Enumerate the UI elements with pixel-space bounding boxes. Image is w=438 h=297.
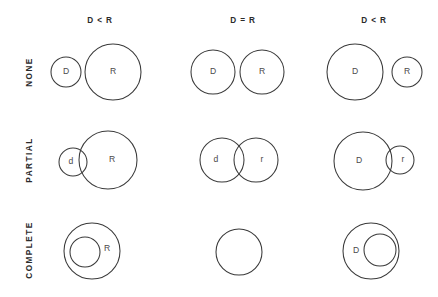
cell-cell-complete-3: D xyxy=(343,223,399,279)
diagram-cells: DRDRDRdRdrDrRD xyxy=(51,44,422,279)
cell-cell-complete-2 xyxy=(216,229,262,275)
cell-partial-2-circle-r-label: r xyxy=(261,154,264,164)
row-labels: NONEPARTIALCOMPLETE xyxy=(25,57,34,279)
cell-partial-1-circle-r-label: R xyxy=(109,154,115,164)
cell-complete-1-circle-r xyxy=(64,223,120,279)
cell-partial-3-circle-r-label: r xyxy=(402,154,405,164)
venn-matrix-figure: D < RD = RD < R NONEPARTIALCOMPLETE DRDR… xyxy=(0,0,438,297)
cell-none-1-circle-d-label: D xyxy=(63,66,69,76)
cell-none-2-circle-d-label: D xyxy=(210,66,216,76)
column-header-2: D = R xyxy=(230,16,256,25)
cell-none-1-circle-r-label: R xyxy=(110,66,116,76)
row-label-row-none: NONE xyxy=(25,57,34,87)
row-label-row-partial: PARTIAL xyxy=(25,137,34,182)
cell-partial-2-circle-d xyxy=(200,138,244,182)
cell-partial-2-circle-r xyxy=(234,138,278,182)
cell-complete-1-circle-r-label: R xyxy=(104,243,110,253)
cell-complete-3-circle-d-label: D xyxy=(353,245,359,255)
cell-cell-complete-1: R xyxy=(64,223,120,279)
cell-complete-3-circle-r xyxy=(364,234,396,266)
cell-cell-partial-3: Dr xyxy=(334,132,414,190)
row-label-row-complete: COMPLETE xyxy=(25,221,34,279)
cell-partial-1-circle-d-label: d xyxy=(69,156,74,166)
cell-cell-none-2: DR xyxy=(191,50,284,94)
cell-cell-partial-2: dr xyxy=(200,138,278,182)
cell-partial-3-circle-d xyxy=(334,132,392,190)
column-headers: D < RD = RD < R xyxy=(87,16,387,25)
cell-partial-3-circle-d-label: D xyxy=(356,155,362,165)
cell-complete-3-circle-d xyxy=(343,223,399,279)
column-header-1: D < R xyxy=(87,16,113,25)
cell-complete-2-circle-dr xyxy=(216,229,262,275)
cell-none-3-circle-d-label: D xyxy=(352,66,358,76)
cell-complete-1-circle-d xyxy=(70,237,100,267)
cell-none-2-circle-r-label: R xyxy=(259,66,265,76)
cell-cell-none-3: DR xyxy=(327,44,422,100)
cell-cell-partial-1: dR xyxy=(59,131,137,189)
column-header-3: D < R xyxy=(361,16,387,25)
cell-partial-3-circle-r xyxy=(386,146,414,174)
cell-partial-2-circle-d-label: d xyxy=(214,154,219,164)
venn-matrix-svg: D < RD = RD < R NONEPARTIALCOMPLETE DRDR… xyxy=(0,0,438,297)
cell-none-3-circle-r-label: R xyxy=(404,66,410,76)
cell-cell-none-1: DR xyxy=(51,44,141,100)
